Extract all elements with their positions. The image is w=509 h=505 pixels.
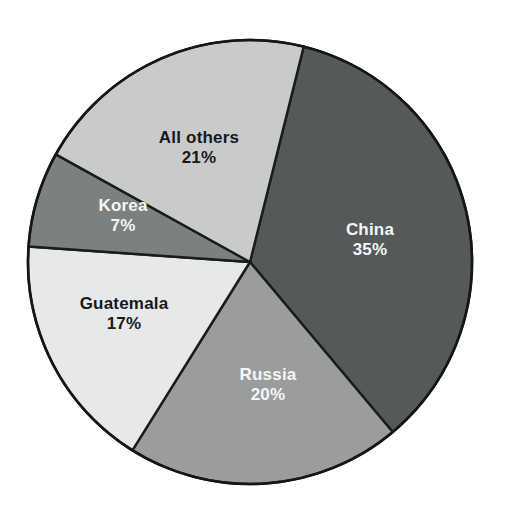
pie-slices-group: [28, 40, 472, 484]
pie-chart-canvas: [0, 0, 509, 505]
pie-chart-figure: China35%Russia20%Guatemala17%Korea7%All …: [0, 0, 509, 505]
